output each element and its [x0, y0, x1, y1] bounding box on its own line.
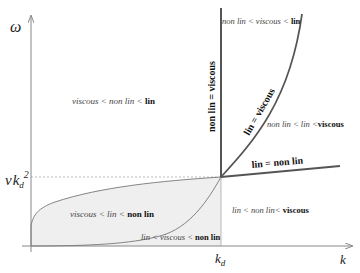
label-lin-equals-non-lin: lin = non lin [251, 155, 304, 170]
kd-tick-label: kd [215, 251, 226, 268]
x-axis-label: k [340, 252, 346, 267]
region-shaded-upper: viscous < lin < non lin [70, 209, 154, 219]
region-shaded-lower: lin < viscous < non lin [141, 232, 221, 242]
y-axis-label: ω [10, 18, 21, 35]
label-non-lin-equals-viscous: non lin = viscous [206, 61, 217, 132]
region-mid-right: non lin < lin <viscous [267, 119, 344, 129]
region-low-right: lin < non lin< viscous [232, 205, 309, 215]
region-top-right: non lin < viscous < lin [222, 16, 301, 26]
regime-diagram: ω k kd νkd2 non lin = viscous lin = visc… [0, 0, 360, 273]
region-upper-left: viscous < non lin < lin [72, 96, 155, 106]
boundary-line [221, 166, 340, 177]
vkd2-tick-label: νkd2 [5, 169, 29, 190]
